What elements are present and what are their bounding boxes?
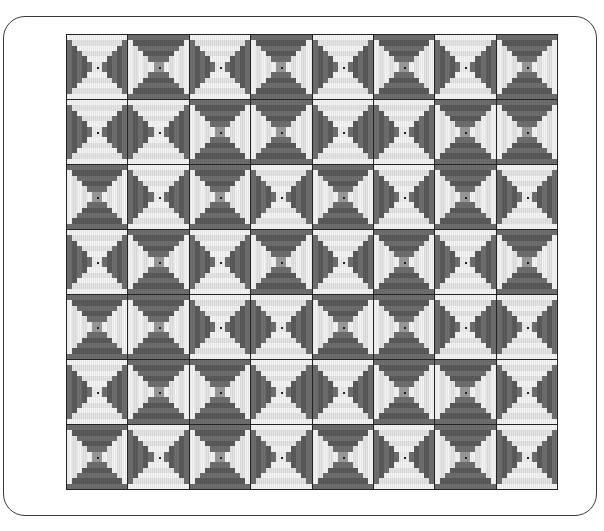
quilt-log-right: [306, 40, 311, 93]
quilt-block: [128, 230, 188, 294]
quilt-log-bottom: [143, 78, 173, 83]
quilt-log-right: [368, 170, 373, 223]
quilt-log-bottom: [440, 413, 490, 418]
quilt-log-bottom: [455, 397, 475, 402]
quilt-log-bottom: [435, 289, 495, 294]
quilt-log-right: [301, 46, 306, 89]
quilt-log-bottom: [148, 397, 168, 402]
quilt-log-bottom: [251, 354, 311, 359]
quilt-log-bottom: [374, 94, 434, 99]
quilt-log-bottom: [251, 289, 311, 294]
quilt-log-right: [291, 121, 296, 142]
artwork-canvas: [0, 0, 604, 531]
quilt-block-center: [97, 457, 99, 459]
quilt-log-right: [179, 111, 184, 154]
quilt-block: [497, 295, 557, 359]
quilt-log-right: [169, 56, 174, 77]
quilt-log-bottom: [384, 83, 424, 88]
quilt-block-center: [281, 392, 283, 394]
quilt-log-right: [179, 436, 184, 479]
quilt-log-right: [235, 181, 240, 213]
quilt-log-right: [102, 452, 107, 463]
quilt-log-right: [102, 192, 107, 203]
quilt-log-bottom: [333, 137, 353, 142]
quilt-log-right: [547, 241, 552, 284]
quilt-log-right: [174, 246, 179, 278]
quilt-log-bottom: [67, 289, 127, 294]
quilt-log-right: [532, 62, 537, 73]
quilt-block-center: [220, 392, 222, 394]
quilt-log-bottom: [205, 273, 235, 278]
quilt-log-bottom: [323, 213, 363, 218]
quilt-log-right: [164, 387, 169, 398]
quilt-log-right: [112, 116, 117, 148]
quilt-log-right: [470, 127, 475, 138]
quilt-log-bottom: [517, 397, 537, 402]
quilt-log-bottom: [190, 484, 250, 489]
quilt-block-center: [343, 457, 345, 459]
quilt-block: [435, 425, 495, 489]
quilt-log-bottom: [205, 78, 235, 83]
quilt-block-center: [527, 327, 529, 329]
quilt-log-right: [184, 170, 189, 223]
quilt-log-right: [164, 257, 169, 268]
quilt-log-right: [230, 251, 235, 272]
quilt-log-right: [481, 116, 486, 148]
quilt-log-right: [486, 46, 491, 89]
quilt-log-bottom: [333, 267, 353, 272]
quilt-block: [374, 100, 434, 164]
quilt-log-bottom: [190, 94, 250, 99]
quilt-log-bottom: [133, 283, 183, 288]
quilt-log-bottom: [450, 273, 480, 278]
quilt-log-bottom: [200, 408, 240, 413]
quilt-log-right: [245, 365, 250, 418]
quilt-log-right: [122, 365, 127, 418]
quilt-log-right: [179, 306, 184, 349]
quilt-block: [497, 100, 557, 164]
quilt-log-bottom: [261, 343, 301, 348]
quilt-block: [190, 35, 250, 99]
quilt-log-bottom: [384, 408, 424, 413]
quilt-log-right: [429, 40, 434, 93]
quilt-log-bottom: [374, 419, 434, 424]
quilt-log-bottom: [128, 94, 188, 99]
quilt-log-bottom: [502, 283, 552, 288]
quilt-log-bottom: [394, 462, 414, 467]
quilt-log-right: [537, 56, 542, 77]
quilt-block: [128, 100, 188, 164]
quilt-log-bottom: [128, 419, 188, 424]
quilt-log-bottom: [313, 94, 373, 99]
quilt-log-right: [107, 186, 112, 207]
quilt-log-bottom: [82, 468, 112, 473]
quilt-log-right: [348, 322, 353, 333]
quilt-log-right: [542, 116, 547, 148]
quilt-log-bottom: [374, 484, 434, 489]
quilt-log-bottom: [389, 78, 419, 83]
quilt-log-bottom: [138, 278, 178, 283]
quilt-log-right: [475, 316, 480, 337]
quilt-block: [251, 230, 311, 294]
quilt-log-bottom: [205, 338, 235, 343]
quilt-log-bottom: [190, 159, 250, 164]
quilt-log-right: [491, 365, 496, 418]
quilt-log-bottom: [323, 83, 363, 88]
quilt-log-right: [542, 441, 547, 473]
quilt-log-bottom: [313, 419, 373, 424]
quilt-log-bottom: [87, 202, 107, 207]
quilt-log-right: [537, 446, 542, 467]
quilt-log-right: [117, 111, 122, 154]
quilt-log-bottom: [389, 143, 419, 148]
quilt-block-center: [281, 132, 283, 134]
quilt-log-bottom: [502, 218, 552, 223]
quilt-log-right: [291, 251, 296, 272]
quilt-log-right: [414, 56, 419, 77]
quilt-log-bottom: [87, 397, 107, 402]
quilt-log-bottom: [200, 278, 240, 283]
quilt-log-bottom: [333, 72, 353, 77]
quilt-log-right: [547, 306, 552, 349]
quilt-log-right: [532, 322, 537, 333]
quilt-log-bottom: [379, 88, 429, 93]
quilt-log-bottom: [497, 289, 557, 294]
quilt-log-right: [358, 246, 363, 278]
quilt-block: [190, 295, 250, 359]
